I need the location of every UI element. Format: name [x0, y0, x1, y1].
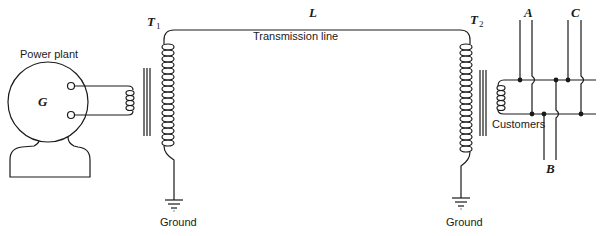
generator-label: G: [38, 94, 48, 109]
ground-label-2: Ground: [446, 216, 483, 228]
ground-label-1: Ground: [160, 216, 197, 228]
customer-b-tap: [542, 78, 559, 160]
t1-subscript: 1: [156, 21, 161, 31]
customer-c-label: C: [571, 5, 580, 20]
transmission-line-label: Transmission line: [253, 30, 338, 42]
primary-coil-t2: [460, 30, 472, 198]
power-plant: Power plant G: [8, 48, 134, 177]
customer-a-label: A: [523, 5, 533, 20]
generator-body: [8, 62, 88, 142]
primary-coil-t1: [126, 91, 134, 111]
ground-symbol-2: [452, 198, 470, 209]
t2-label: T: [470, 12, 479, 27]
customers-label: Customers: [492, 118, 546, 130]
t1-label: T: [147, 14, 156, 29]
ground-symbol-1: [165, 200, 183, 211]
customer-a-tap: [518, 20, 535, 116]
customer-b-label: B: [545, 161, 555, 176]
transmission-line-symbol: L: [308, 5, 317, 20]
power-plant-label: Power plant: [20, 48, 78, 60]
power-system-diagram: Power plant G T 1: [0, 0, 600, 236]
generator-base: [10, 137, 90, 177]
t2-subscript: 2: [479, 19, 484, 29]
customer-c-tap: [566, 20, 584, 116]
t1-core: [144, 68, 150, 136]
t2-core: [480, 70, 486, 136]
secondary-coil-t1: [162, 30, 174, 200]
